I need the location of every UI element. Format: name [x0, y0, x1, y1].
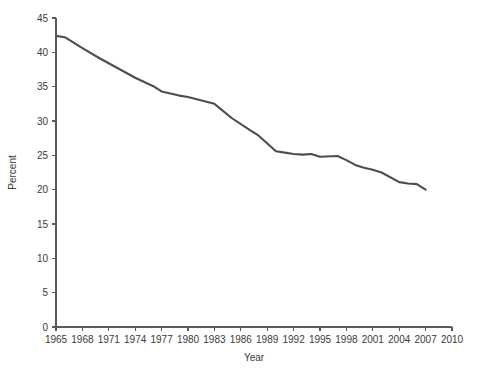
data-series-line	[56, 36, 426, 190]
x-tick-label: 1974	[124, 334, 147, 345]
x-tick-label: 1998	[335, 334, 358, 345]
y-tick-label: 35	[37, 81, 49, 92]
y-tick-label: 20	[37, 184, 49, 195]
x-tick-label: 1965	[45, 334, 68, 345]
y-tick-label: 30	[37, 116, 49, 127]
chart-container: 051015202530354045 196519681971197419771…	[0, 0, 478, 374]
y-tick-label: 40	[37, 47, 49, 58]
x-tick-label: 1989	[256, 334, 279, 345]
y-axis-ticks: 051015202530354045	[37, 13, 56, 333]
x-tick-label: 1995	[309, 334, 332, 345]
y-tick-label: 0	[42, 322, 48, 333]
x-tick-label: 1992	[282, 334, 305, 345]
x-axis-title: Year	[244, 352, 265, 363]
x-tick-label: 2010	[441, 334, 464, 345]
y-tick-label: 15	[37, 219, 49, 230]
y-axis-title: Percent	[7, 155, 18, 190]
x-tick-label: 1971	[98, 334, 121, 345]
x-tick-label: 2004	[388, 334, 411, 345]
line-chart: 051015202530354045 196519681971197419771…	[0, 0, 478, 374]
x-tick-label: 1986	[230, 334, 253, 345]
x-tick-label: 1977	[150, 334, 173, 345]
y-tick-label: 25	[37, 150, 49, 161]
y-tick-label: 5	[42, 287, 48, 298]
x-tick-label: 1968	[71, 334, 94, 345]
y-tick-label: 10	[37, 253, 49, 264]
x-tick-label: 2007	[414, 334, 437, 345]
x-axis-ticks: 1965196819711974197719801983198619891992…	[45, 327, 464, 345]
y-tick-label: 45	[37, 13, 49, 24]
x-tick-label: 1980	[177, 334, 200, 345]
x-tick-label: 2001	[362, 334, 385, 345]
x-tick-label: 1983	[203, 334, 226, 345]
